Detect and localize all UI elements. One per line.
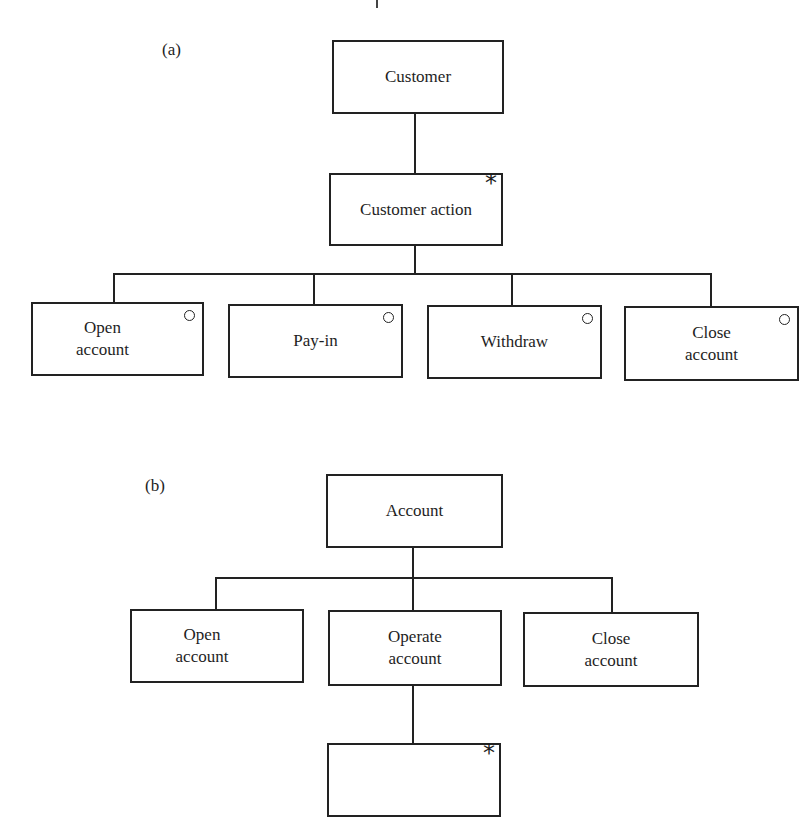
connector-a-3 xyxy=(511,273,513,306)
pay-in-label: Pay-in xyxy=(293,330,337,352)
pay-in-box: Pay-in xyxy=(228,304,403,378)
iteration-asterisk-icon: * xyxy=(483,741,495,765)
open-account-label-b: Open account xyxy=(176,624,259,668)
diagram-b-label: (b) xyxy=(145,476,165,496)
close-account-label-a: Close account xyxy=(685,322,738,366)
connector-a-4 xyxy=(710,273,712,307)
connector-a-2 xyxy=(313,273,315,305)
operate-account-box: Operate account xyxy=(328,610,502,686)
withdraw-label: Withdraw xyxy=(481,331,548,353)
cropped-heading-fragment xyxy=(372,0,382,8)
open-account-box-b: Open account xyxy=(130,609,304,683)
selection-circle-icon xyxy=(779,314,790,325)
customer-box: Customer xyxy=(332,40,504,114)
selection-circle-icon xyxy=(582,313,593,324)
open-account-label-a: Open account xyxy=(76,317,159,361)
close-account-label-b: Close account xyxy=(585,628,638,672)
selection-circle-icon xyxy=(184,310,195,321)
customer-action-box: * Customer action xyxy=(329,173,503,246)
close-account-box-a: Close account xyxy=(624,306,799,381)
operate-account-label: Operate account xyxy=(388,626,442,670)
connector-b-2 xyxy=(412,577,414,611)
withdraw-box: Withdraw xyxy=(427,305,602,379)
connector-b-3 xyxy=(611,577,613,613)
close-account-box-b: Close account xyxy=(523,612,699,687)
connector-customer-to-action xyxy=(414,114,416,173)
account-box: Account xyxy=(326,474,503,548)
selection-bar-a xyxy=(113,273,712,275)
diagram-a-label: (a) xyxy=(162,40,181,60)
customer-box-label: Customer xyxy=(385,66,451,88)
connector-a-1 xyxy=(113,273,115,303)
connector-action-to-bar xyxy=(414,246,416,274)
connector-operate-to-iteration xyxy=(412,686,414,744)
customer-action-label: Customer action xyxy=(360,199,472,221)
operation-iteration-box: * xyxy=(327,743,501,817)
connector-account-to-bar xyxy=(412,548,414,578)
sequence-bar-b xyxy=(215,577,613,579)
iteration-asterisk-icon: * xyxy=(485,171,497,195)
open-account-box-a: Open account xyxy=(31,302,204,376)
connector-b-1 xyxy=(215,577,217,610)
selection-circle-icon xyxy=(383,312,394,323)
account-box-label: Account xyxy=(386,500,444,522)
